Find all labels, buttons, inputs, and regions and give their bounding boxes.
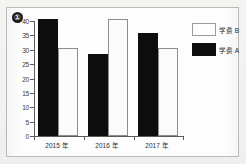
white-swatch-icon: [192, 23, 216, 36]
y-tick-label: 15: [22, 89, 29, 96]
bar-学费A-2015年: [38, 19, 58, 136]
y-tick: [30, 93, 34, 94]
plot-area: 0510152025303540 2015 年2016 年2017 年: [34, 21, 184, 137]
legend-label: 学费 B: [219, 25, 239, 35]
y-tick-label: 5: [26, 118, 29, 125]
legend-label: 学费 A: [219, 45, 239, 55]
y-tick: [30, 64, 34, 65]
x-axis-label: 2015 年: [45, 140, 68, 150]
x-tick: [84, 137, 85, 140]
y-tick: [30, 35, 34, 36]
y-tick-label: 20: [22, 75, 29, 82]
chart-legend: 学费 B学费 A: [192, 23, 239, 56]
x-axis-label: 2017 年: [145, 140, 168, 150]
y-tick-label: 25: [22, 61, 29, 68]
bar-学费B-2015年: [58, 48, 78, 136]
y-tick-label: 10: [22, 104, 29, 111]
y-tick: [30, 50, 34, 51]
bar-学费A-2016年: [88, 54, 108, 137]
y-tick: [30, 107, 34, 108]
chart-page: ① 0510152025303540 2015 年2016 年2017 年 学费…: [0, 0, 246, 164]
bar-学费A-2017年: [138, 33, 158, 136]
x-tick: [134, 137, 135, 140]
y-tick: [30, 79, 34, 80]
legend-item-a: 学费 A: [192, 43, 239, 56]
y-axis-line: [34, 21, 35, 137]
bar-学费B-2017年: [158, 48, 178, 136]
black-swatch-icon: [192, 43, 216, 56]
y-tick-label: 35: [22, 32, 29, 39]
y-tick-label: 40: [22, 18, 29, 25]
x-tick: [34, 137, 35, 140]
x-axis-line: [34, 136, 184, 137]
x-tick: [183, 137, 184, 140]
y-tick-label: 0: [26, 133, 29, 140]
bar-学费B-2016年: [108, 19, 128, 136]
y-tick-label: 30: [22, 46, 29, 53]
legend-item-b: 学费 B: [192, 23, 239, 36]
y-tick: [30, 122, 34, 123]
y-tick: [30, 21, 34, 22]
chart-panel: ① 0510152025303540 2015 年2016 年2017 年 学费…: [6, 7, 239, 157]
x-axis-label: 2016 年: [95, 140, 118, 150]
